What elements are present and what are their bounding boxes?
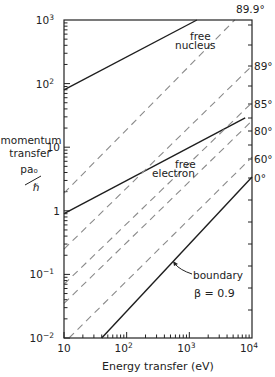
y-tick-label: 10−1 (30, 267, 55, 280)
dashed-angle-line (64, 66, 252, 249)
x-tick-label: 102 (115, 341, 133, 354)
free-nucleus-label-2: nucleus (175, 39, 216, 51)
arrowhead-icon (173, 261, 178, 266)
boundary-pointer-arrow (175, 264, 192, 274)
dashed-angle-line (69, 157, 252, 338)
y-tick-label: 10−2 (30, 331, 55, 344)
y-axis-units-numerator: pa₀ (20, 163, 37, 175)
angle-label: 85° (254, 98, 273, 110)
solid-line (102, 177, 252, 338)
chart: 1010210310410−210−111010210389.9°89°85°8… (0, 0, 275, 377)
y-tick-label: 102 (36, 77, 54, 90)
y-axis-title-line1: momentum (1, 134, 62, 146)
y-axis-units-denominator: ℏ (33, 181, 40, 193)
dashed-angle-line (64, 103, 252, 285)
boundary-label: boundary (193, 269, 243, 281)
y-tick-label: 1 (53, 205, 60, 217)
x-axis-title: Energy transfer (eV) (102, 360, 214, 373)
line-annotations: free nucleus free electron boundary β = … (152, 30, 243, 300)
angle-label: 0° (254, 172, 266, 184)
x-tick-label: 104 (240, 341, 258, 354)
y-axis-title-line2: transfer (9, 147, 51, 159)
free-electron-label-2: electron (152, 167, 195, 179)
angle-label: 89.9° (236, 3, 265, 15)
x-tick-label: 10 (57, 342, 70, 354)
angle-label: 80° (254, 125, 273, 137)
beta-label: β = 0.9 (194, 287, 235, 300)
angle-label: 60° (254, 153, 273, 165)
x-tick-label: 103 (177, 341, 195, 354)
angle-label: 89° (254, 60, 273, 72)
y-tick-label: 103 (36, 13, 54, 26)
